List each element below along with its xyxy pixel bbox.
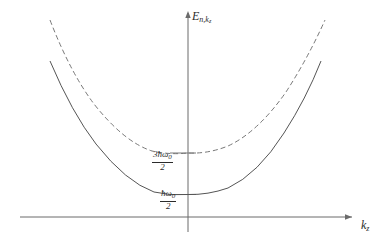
upper-level-numerator-text: 3ħω	[153, 149, 168, 159]
lower-level-label: ħω0 2	[160, 189, 176, 212]
y-axis-label-sub: n,k	[199, 15, 209, 24]
upper-level-numerator-subscript: 0	[168, 153, 172, 161]
lower-level-numerator: ħω0	[160, 189, 176, 200]
x-axis-arrowhead	[345, 214, 352, 219]
lower-level-denominator: 2	[160, 202, 176, 211]
lower-level-fraction: ħω0 2	[160, 189, 176, 212]
upper-level-numerator: 3ħω0	[152, 150, 173, 161]
y-axis-arrowhead	[185, 11, 190, 18]
x-axis-label: kz	[361, 219, 369, 233]
solid-band-curve	[50, 61, 321, 195]
lower-level-numerator-subscript: 0	[172, 192, 176, 200]
y-axis-label: En,kz	[192, 10, 211, 24]
upper-level-denominator: 2	[152, 163, 173, 172]
lower-level-numerator-text: ħω	[161, 188, 172, 198]
y-axis-label-subsub: z	[209, 18, 211, 24]
upper-level-label: 3ħω0 2	[152, 150, 173, 173]
x-axis-label-sub: z	[366, 224, 369, 233]
energy-band-figure: En,kz kz 3ħω0 2 ħω0 2	[0, 0, 390, 242]
plot-canvas	[0, 0, 390, 242]
upper-level-fraction: 3ħω0 2	[152, 150, 173, 173]
